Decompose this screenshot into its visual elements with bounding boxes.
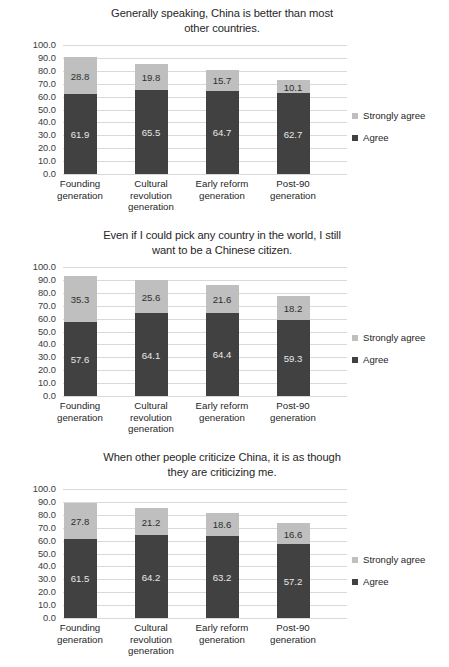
plot-area: 28.861.919.865.515.764.710.162.7 [63, 45, 347, 174]
bar-segment-agree[interactable]: 64.4 [206, 313, 239, 396]
y-axis-tick-label: 20.0 [8, 143, 56, 153]
x-axis-labels: FoundinggenerationCulturalrevolutiongene… [63, 622, 347, 666]
x-axis-category-label: Foundinggeneration [42, 400, 118, 423]
bar-segment-agree[interactable]: 63.2 [206, 536, 239, 618]
bar-value-label: 18.6 [206, 519, 239, 530]
bar-segment-strongly-agree[interactable]: 35.3 [64, 276, 97, 322]
gridline [63, 489, 347, 490]
plot-area: 35.357.625.664.121.664.418.259.3 [63, 267, 347, 396]
x-axis-labels: FoundinggenerationCulturalrevolutiongene… [63, 400, 347, 444]
stacked-bar[interactable]: 18.663.2 [206, 513, 239, 619]
stacked-bar[interactable]: 19.865.5 [135, 64, 168, 174]
bar-segment-strongly-agree[interactable]: 19.8 [135, 64, 168, 90]
bar-value-label: 16.6 [277, 528, 310, 539]
x-axis-category-label: Foundinggeneration [42, 178, 118, 201]
x-axis-category-line: generation [42, 412, 118, 424]
bar-segment-strongly-agree[interactable]: 28.8 [64, 57, 97, 94]
y-axis-tick-label: 100.0 [8, 484, 56, 494]
x-axis-category-line: generation [255, 412, 331, 424]
bar-segment-agree[interactable]: 62.7 [277, 93, 310, 174]
gridline [63, 45, 347, 46]
x-axis-category-label: Post-90generation [255, 622, 331, 645]
bar-segment-agree[interactable]: 57.2 [277, 544, 310, 618]
bar-segment-strongly-agree[interactable]: 21.2 [135, 508, 168, 535]
x-axis-category-label: Foundinggeneration [42, 622, 118, 645]
chart-block: Even if I could pick any country in the … [0, 222, 449, 444]
y-axis-tick-label: 50.0 [8, 327, 56, 337]
y-axis-tick-label: 40.0 [8, 561, 56, 571]
bar-segment-agree[interactable]: 64.1 [135, 313, 168, 396]
bar-value-label: 28.8 [64, 70, 97, 81]
bar-value-label: 19.8 [135, 71, 168, 82]
bar-value-label: 18.2 [277, 302, 310, 313]
bar-segment-agree[interactable]: 64.7 [206, 91, 239, 174]
gridline [63, 267, 347, 268]
bar-segment-strongly-agree[interactable]: 21.6 [206, 285, 239, 313]
bar-segment-strongly-agree[interactable]: 18.2 [277, 296, 310, 319]
y-axis-tick-label: 30.0 [8, 574, 56, 584]
x-axis-category-line: generation [184, 412, 260, 424]
x-axis-category-label: Culturalrevolutiongeneration [113, 400, 189, 435]
chart-title: Even if I could pick any country in the … [52, 228, 392, 258]
y-axis-tick-label: 10.0 [8, 378, 56, 388]
stacked-bar[interactable]: 28.861.9 [64, 57, 97, 174]
bar-segment-strongly-agree[interactable]: 18.6 [206, 513, 239, 537]
y-axis-tick-label: 40.0 [8, 339, 56, 349]
gridline [63, 280, 347, 281]
y-axis-tick-label: 30.0 [8, 130, 56, 140]
bar-segment-strongly-agree[interactable]: 10.1 [277, 80, 310, 93]
y-axis-tick-label: 20.0 [8, 587, 56, 597]
legend-item[interactable]: Agree [352, 354, 449, 365]
bar-segment-strongly-agree[interactable]: 15.7 [206, 70, 239, 90]
bar-value-label: 64.4 [206, 349, 239, 360]
legend-item[interactable]: Strongly agree [352, 110, 449, 121]
chart-title: Generally speaking, China is better than… [52, 6, 392, 36]
y-axis-tick-label: 100.0 [8, 40, 56, 50]
bar-segment-agree[interactable]: 59.3 [277, 320, 310, 396]
bar-segment-agree[interactable]: 57.6 [64, 322, 97, 396]
stacked-bar[interactable]: 16.657.2 [277, 523, 310, 618]
bar-value-label: 57.2 [277, 576, 310, 587]
legend-item[interactable]: Agree [352, 576, 449, 587]
x-axis-category-line: Early reform [184, 400, 260, 412]
x-axis-category-line: Founding [42, 400, 118, 412]
y-axis-tick-label: 10.0 [8, 600, 56, 610]
legend-item-label: Strongly agree [363, 110, 425, 121]
legend-item[interactable]: Strongly agree [352, 554, 449, 565]
legend-item-label: Agree [363, 132, 389, 143]
bar-segment-strongly-agree[interactable]: 27.8 [64, 503, 97, 539]
bar-segment-strongly-agree[interactable]: 25.6 [135, 280, 168, 313]
stacked-bar[interactable]: 18.259.3 [277, 296, 310, 396]
legend-item[interactable]: Strongly agree [352, 332, 449, 343]
stacked-bar[interactable]: 27.861.5 [64, 503, 97, 618]
x-axis-category-line: generation [113, 201, 189, 213]
legend-item-label: Strongly agree [363, 554, 425, 565]
bar-value-label: 62.7 [277, 128, 310, 139]
legend-item[interactable]: Agree [352, 132, 449, 143]
stacked-bar[interactable]: 15.764.7 [206, 70, 239, 174]
stacked-bar[interactable]: 25.664.1 [135, 280, 168, 396]
x-axis-category-line: Cultural [113, 622, 189, 634]
x-axis-category-label: Post-90generation [255, 400, 331, 423]
bar-segment-agree[interactable]: 61.9 [64, 94, 97, 174]
stacked-bar[interactable]: 35.357.6 [64, 276, 97, 396]
bar-value-label: 15.7 [206, 75, 239, 86]
bar-segment-strongly-agree[interactable]: 16.6 [277, 523, 310, 544]
y-axis-tick-label: 80.0 [8, 510, 56, 520]
x-axis-category-line: Post-90 [255, 400, 331, 412]
stacked-bar[interactable]: 21.264.2 [135, 508, 168, 618]
x-axis-category-line: revolution [113, 412, 189, 424]
bar-segment-agree[interactable]: 61.5 [64, 539, 97, 618]
stacked-bar[interactable]: 10.162.7 [277, 80, 310, 174]
bar-segment-agree[interactable]: 65.5 [135, 90, 168, 174]
stacked-bar[interactable]: 21.664.4 [206, 285, 239, 396]
chart-title-line: want to be a Chinese citizen. [52, 243, 392, 258]
bar-segment-agree[interactable]: 64.2 [135, 535, 168, 618]
x-axis-category-line: Early reform [184, 622, 260, 634]
x-axis-category-line: generation [184, 634, 260, 646]
x-axis-category-line: Founding [42, 622, 118, 634]
y-axis-tick-label: 90.0 [8, 497, 56, 507]
y-axis-tick-label: 90.0 [8, 53, 56, 63]
y-axis-labels: 100.090.080.070.060.050.040.030.020.010.… [8, 482, 56, 625]
gridline [63, 618, 347, 619]
